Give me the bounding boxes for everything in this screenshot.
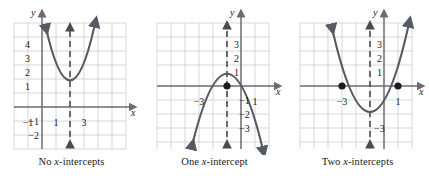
caption-suffix: -intercept: [207, 156, 248, 167]
x-tick-3: 3: [82, 117, 87, 128]
y-axis-label: y: [31, 7, 35, 18]
y-tick-2: 2: [25, 67, 30, 78]
x-tick-neg3: −3: [194, 96, 205, 107]
x-tick-1: 1: [396, 96, 401, 107]
y-tick-2: 2: [377, 53, 382, 64]
x-axis-label: x: [131, 107, 135, 118]
x-axis-label: x: [276, 86, 280, 97]
y-tick-1: 1: [377, 67, 382, 78]
y-tick-neg2: −2: [28, 130, 39, 141]
x-axis-label: x: [419, 86, 423, 97]
caption-no-intercepts: No x-intercepts: [0, 156, 143, 167]
panel-no-intercepts: y x 4 3 2 1 −1 −2 −1 1 3 No x-intercepts: [0, 0, 143, 181]
y-axis-label: y: [373, 7, 377, 18]
y-tick-1: 1: [25, 81, 30, 92]
caption-suffix: -intercepts: [348, 156, 393, 167]
caption-prefix: One: [181, 156, 202, 167]
panel-one-intercept: y x 3 2 1 −1 −2 −3 −3 1 One x-intercept: [143, 0, 286, 181]
y-tick-4: 4: [25, 39, 30, 50]
y-tick-2: 2: [234, 53, 239, 64]
y-tick-3: 3: [25, 53, 30, 64]
x-tick-1: 1: [54, 117, 59, 128]
parabola-intercepts-figure: y x 4 3 2 1 −1 −2 −1 1 3 No x-intercepts: [0, 0, 429, 181]
y-tick-neg3: −3: [374, 123, 385, 134]
x-tick-neg1: −1: [23, 117, 34, 128]
y-tick-3: 3: [377, 39, 382, 50]
x-tick-neg3: −3: [337, 96, 348, 107]
x-tick-1: 1: [253, 96, 258, 107]
y-tick-1: 1: [234, 67, 239, 78]
panel-two-intercepts: y x 3 2 1 −3 −3 1 Two x-intercepts: [286, 0, 429, 181]
y-tick-neg1: −1: [239, 95, 250, 106]
caption-prefix: No: [39, 156, 55, 167]
y-tick-neg2: −2: [239, 109, 250, 120]
y-tick-3: 3: [234, 39, 239, 50]
caption-prefix: Two: [322, 156, 344, 167]
caption-one-intercept: One x-intercept: [143, 156, 286, 167]
caption-suffix: -intercepts: [59, 156, 104, 167]
y-tick-neg3: −3: [239, 123, 250, 134]
caption-two-intercepts: Two x-intercepts: [286, 156, 429, 167]
graph-two-intercepts: y x 3 2 1 −3 −3 1: [286, 0, 429, 155]
graph-one-intercept: y x 3 2 1 −1 −2 −3 −3 1: [143, 0, 286, 155]
y-axis-label: y: [230, 7, 234, 18]
graph-no-intercepts: y x 4 3 2 1 −1 −2 −1 1 3: [0, 0, 143, 155]
